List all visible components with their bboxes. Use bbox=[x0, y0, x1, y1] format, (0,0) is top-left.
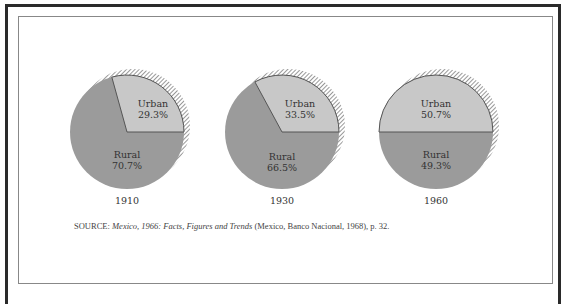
year-label: 1930 bbox=[270, 195, 294, 206]
pie-1960: Urban 50.7% Rural 49.3% 1960 bbox=[379, 69, 499, 206]
rural-label: Rural bbox=[114, 149, 141, 160]
urban-label: Urban bbox=[138, 98, 168, 109]
rural-label: Rural bbox=[423, 149, 450, 160]
urban-label: Urban bbox=[421, 98, 451, 109]
source-title: Mexico, 1966: Facts, Figures and Trends bbox=[112, 221, 252, 231]
rural-label: Rural bbox=[269, 151, 296, 162]
year-label: 1960 bbox=[424, 195, 448, 206]
pie-1930: Urban 33.5% Rural 66.5% 1930 bbox=[225, 69, 345, 206]
urban-value: 29.3% bbox=[138, 109, 168, 120]
source-suffix: (Mexico, Banco Nacional, 1968), p. 32. bbox=[252, 221, 389, 231]
rural-value: 70.7% bbox=[112, 160, 142, 171]
urban-value: 50.7% bbox=[421, 109, 451, 120]
source-note: SOURCE: Mexico, 1966: Facts, Figures and… bbox=[74, 221, 390, 231]
rural-value: 66.5% bbox=[267, 162, 297, 173]
pie-1910: Urban 29.3% Rural 70.7% 1910 bbox=[70, 69, 190, 206]
rural-value: 49.3% bbox=[421, 160, 451, 171]
source-prefix: SOURCE: bbox=[74, 221, 112, 231]
urban-label: Urban bbox=[285, 98, 315, 109]
year-label: 1910 bbox=[115, 195, 139, 206]
urban-value: 33.5% bbox=[285, 109, 315, 120]
